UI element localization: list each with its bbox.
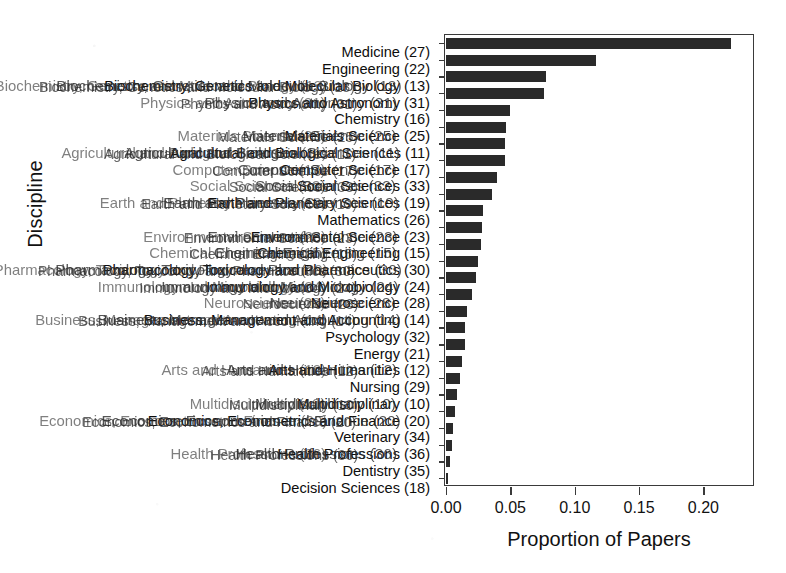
category-label: Arts and Humanities (12)Arts and Humanit…	[10, 362, 430, 378]
y-axis-tick	[439, 143, 445, 144]
category-label-column: Medicine (27)Engineering (22)Biochemistr…	[10, 44, 430, 480]
x-axis-tick	[639, 487, 640, 495]
bar	[446, 155, 505, 166]
y-axis-tick	[439, 361, 445, 362]
y-axis-tick	[439, 93, 445, 94]
y-axis-tick	[439, 311, 445, 312]
category-label-text: Economics, Econometrics and Finance (20)	[148, 413, 430, 429]
bar	[446, 122, 506, 133]
category-label: Health Professions (36)Health Profession…	[10, 446, 430, 462]
bar	[446, 189, 492, 200]
x-axis-tick	[575, 487, 576, 495]
category-label-text: Immunology and Microbiology (24)	[206, 279, 430, 295]
y-axis-tick	[439, 160, 445, 161]
category-label: Medicine (27)	[10, 44, 430, 60]
bar	[446, 306, 467, 317]
category-label-text: Social Sciences (33)	[297, 178, 430, 194]
x-axis-tick-label: 0.00	[430, 499, 461, 517]
y-axis-tick	[439, 194, 445, 195]
category-label: Immunology and Microbiology (24)Immunolo…	[10, 279, 430, 295]
category-label-text: Energy (21)	[354, 346, 430, 362]
category-label-text: Dentistry (35)	[342, 463, 430, 479]
category-label-text: Earth and Planetary Sciences (19)	[208, 195, 430, 211]
bar	[446, 138, 505, 149]
y-axis-tick	[439, 344, 445, 345]
category-label-text: Decision Sciences (18)	[281, 480, 430, 496]
bar	[446, 71, 546, 82]
x-axis-tick-label: 0.20	[688, 499, 719, 517]
category-label: Social Sciences (33)Social Sciences (33)…	[10, 178, 430, 194]
category-label-text: Arts and Humanities (12)	[269, 362, 430, 378]
y-axis-tick	[439, 411, 445, 412]
y-axis-tick	[439, 227, 445, 228]
category-label: Materials Science (25)Materials Science …	[10, 128, 430, 144]
category-label: Engineering (22)	[10, 61, 430, 77]
bar	[446, 38, 731, 49]
x-axis-tick	[446, 487, 447, 495]
y-axis-tick	[439, 210, 445, 211]
category-label-text: Agricultural and Biological Sciences (11…	[170, 145, 430, 161]
x-axis-tick	[510, 487, 511, 495]
x-axis-tick-label: 0.10	[559, 499, 590, 517]
bar	[446, 423, 453, 434]
bar	[446, 88, 544, 99]
category-label-text: Business, Management and Accounting (14)	[144, 312, 430, 328]
y-axis-tick	[439, 43, 445, 44]
y-axis-tick	[439, 461, 445, 462]
bar	[446, 172, 497, 183]
category-label: Mathematics (26)	[10, 212, 430, 228]
bar	[446, 456, 450, 467]
bar	[446, 339, 465, 350]
category-label-ghost: Neuroscience (28)	[204, 295, 326, 311]
bar	[446, 105, 510, 116]
category-label: Psychology (32)	[10, 329, 430, 345]
x-axis-tick-label: 0.05	[495, 499, 526, 517]
bar	[446, 356, 462, 367]
y-axis-tick	[439, 60, 445, 61]
y-axis-tick	[439, 127, 445, 128]
category-label-text: Medicine (27)	[342, 44, 430, 60]
category-label-text: Health Professions (36)	[278, 446, 431, 462]
y-axis-tick	[439, 76, 445, 77]
category-label-text: Engineering (22)	[322, 61, 430, 77]
category-label-text: Environmental Science (23)	[251, 229, 430, 245]
x-axis-title: Proportion of Papers	[444, 528, 754, 551]
y-axis-tick	[439, 327, 445, 328]
category-label: Neuroscience (28)Neuroscience (28)Neuros…	[10, 295, 430, 311]
category-label: Environmental Science (23)Environmental …	[10, 229, 430, 245]
category-label: Energy (21)	[10, 346, 430, 362]
category-label: Pharmacology, Toxicology and Pharmaceuti…	[10, 262, 430, 278]
bar	[446, 222, 482, 233]
category-label: Computer Science (17)Computer Science (1…	[10, 162, 430, 178]
category-label: Nursing (29)	[10, 379, 430, 395]
bar	[446, 389, 457, 400]
y-axis-tick	[439, 478, 445, 479]
bar	[446, 473, 448, 484]
bar	[446, 440, 452, 451]
y-axis-tick	[439, 277, 445, 278]
category-label: Chemical Engineering (15)Chemical Engine…	[10, 245, 430, 261]
category-label-text: Mathematics (26)	[317, 212, 430, 228]
category-label-text: Computer Science (17)	[280, 162, 430, 178]
category-label: Dentistry (35)	[10, 463, 430, 479]
category-label-text: Veterinary (34)	[334, 429, 430, 445]
category-label: Decision Sciences (18)	[10, 480, 430, 496]
bar	[446, 55, 596, 66]
bar	[446, 406, 455, 417]
plot-area: 0.000.050.100.150.20	[444, 34, 754, 486]
category-label-text: Multidisciplinary (10)	[297, 396, 430, 412]
category-label: Earth and Planetary Sciences (19)Earth a…	[10, 195, 430, 211]
category-label-text: Neuroscience (28)	[311, 295, 430, 311]
category-label: Economics, Econometrics and Finance (20)…	[10, 413, 430, 429]
y-axis-tick	[439, 244, 445, 245]
y-axis-tick	[439, 428, 445, 429]
category-label-text: Nursing (29)	[350, 379, 430, 395]
category-label-text: Pharmacology, Toxicology and Pharmaceuti…	[103, 262, 430, 278]
category-label: Physics and Astronomy (31)Physics and As…	[10, 95, 430, 111]
category-label: Agricultural and Biological Sciences (11…	[10, 145, 430, 161]
bar	[446, 322, 465, 333]
category-label-text: Physics and Astronomy (31)	[248, 95, 430, 111]
bar	[446, 272, 476, 283]
bar	[446, 373, 460, 384]
bars-layer	[445, 35, 753, 485]
